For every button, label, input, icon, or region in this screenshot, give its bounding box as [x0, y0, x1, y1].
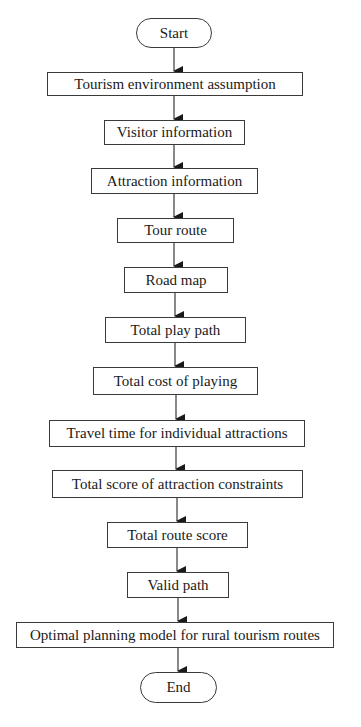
step-tourism-environment-assumption: Tourism environment assumption: [47, 72, 303, 96]
step-valid-path: Valid path: [127, 572, 229, 598]
step-visitor-information: Visitor information: [104, 120, 245, 145]
step-travel-time-individual-attractions: Travel time for individual attractions: [49, 420, 305, 447]
connectors: [0, 0, 361, 727]
end-terminator: End: [140, 672, 217, 703]
step-total-play-path: Total play path: [105, 317, 246, 343]
start-terminator: Start: [136, 18, 212, 48]
step-total-cost-of-playing: Total cost of playing: [93, 367, 258, 395]
step-tour-route: Tour route: [117, 218, 234, 243]
step-optimal-planning-model: Optimal planning model for rural tourism…: [16, 622, 334, 648]
step-total-score-attraction-constraints: Total score of attraction constraints: [52, 470, 303, 498]
step-total-route-score: Total route score: [107, 522, 248, 548]
step-attraction-information: Attraction information: [91, 168, 258, 194]
step-road-map: Road map: [124, 267, 228, 293]
